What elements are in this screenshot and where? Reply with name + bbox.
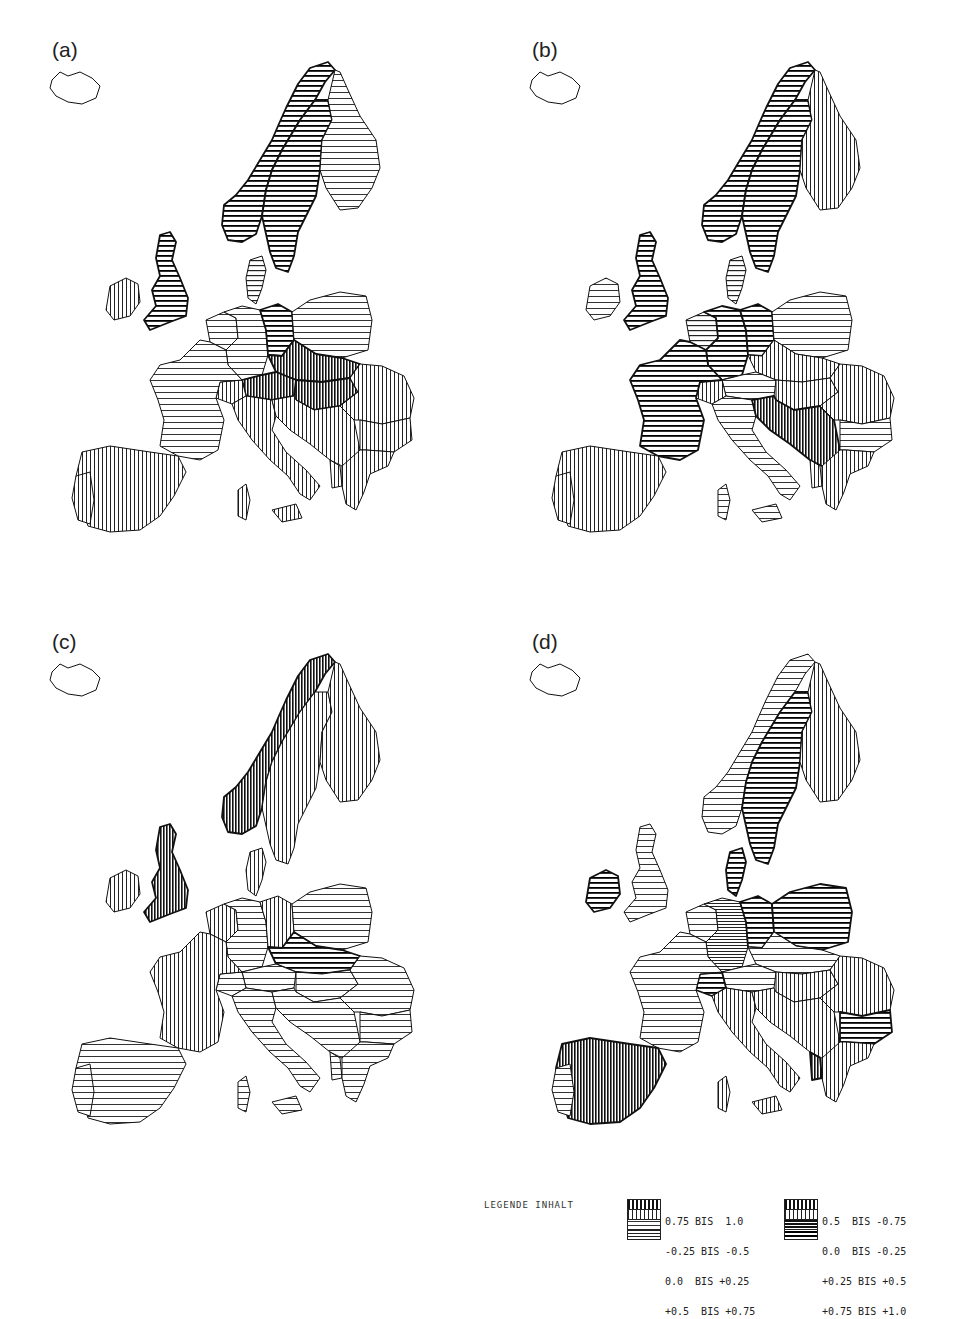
country-sweden xyxy=(742,100,812,272)
swatch-horizontal-bold xyxy=(785,1230,817,1239)
legend-label: +0.5 BIS +0.75 xyxy=(665,1307,755,1317)
swatch-vertical xyxy=(628,1210,660,1220)
panel-label: (d) xyxy=(532,630,558,654)
country-bulgaria xyxy=(840,1010,892,1044)
legend-labels: 0.75 BIS 1.0 -0.25 BIS -0.5 0.0 BIS +0.2… xyxy=(665,1197,755,1319)
country-sicily xyxy=(752,504,782,522)
country-bulgaria xyxy=(360,1010,412,1044)
legend-label: 0.0 BIS -0.25 xyxy=(822,1247,906,1257)
country-portugal xyxy=(552,472,574,524)
country-sicily xyxy=(272,504,302,522)
country-finland xyxy=(800,662,860,802)
country-sicily xyxy=(272,1096,302,1114)
country-finland xyxy=(320,70,380,210)
country-portugal xyxy=(72,472,94,524)
europe-map xyxy=(10,20,480,610)
legend-label: +0.75 BIS +1.0 xyxy=(822,1307,906,1317)
country-iceland xyxy=(530,72,580,104)
map-legend: LEGENDE INHALT 0.75 BIS 1.0 -0.25 BIS -0… xyxy=(484,1197,964,1242)
europe-map xyxy=(490,612,960,1202)
swatch-horizontal xyxy=(628,1230,660,1239)
legend-swatches xyxy=(627,1199,661,1240)
country-sweden xyxy=(262,692,332,864)
country-sardinia xyxy=(238,1076,250,1112)
country-finland xyxy=(320,662,380,802)
country-uk xyxy=(624,824,668,922)
country-sardinia xyxy=(718,484,730,520)
country-sweden xyxy=(262,100,332,272)
swatch-vertical xyxy=(785,1210,817,1220)
country-sardinia xyxy=(718,1076,730,1112)
country-uk xyxy=(144,824,188,922)
country-sicily xyxy=(752,1096,782,1114)
map-panel-c: (c) xyxy=(10,612,480,1202)
country-iceland xyxy=(530,664,580,696)
country-greece xyxy=(342,1042,394,1102)
panel-label: (c) xyxy=(52,630,77,654)
legend-label: 0.5 BIS -0.75 xyxy=(822,1217,906,1227)
country-ireland xyxy=(586,278,620,320)
legend-title: LEGENDE INHALT xyxy=(484,1200,574,1210)
country-uk xyxy=(624,232,668,330)
panel-label: (b) xyxy=(532,38,558,62)
country-bulgaria xyxy=(840,418,892,452)
swatch-vertical-dense xyxy=(785,1200,817,1210)
country-portugal xyxy=(552,1064,574,1116)
country-portugal xyxy=(72,1064,94,1116)
country-denmark xyxy=(246,848,266,896)
country-greece xyxy=(822,450,874,510)
legend-labels: 0.5 BIS -0.75 0.0 BIS -0.25 +0.25 BIS +0… xyxy=(822,1197,906,1319)
legend-label: 0.75 BIS 1.0 xyxy=(665,1217,755,1227)
country-finland xyxy=(800,70,860,210)
panel-label: (a) xyxy=(52,38,78,62)
country-uk xyxy=(144,232,188,330)
country-denmark xyxy=(726,848,746,896)
swatch-horizontal-sparse xyxy=(628,1220,660,1230)
map-panel-a: (a) xyxy=(10,20,480,610)
legend-label: -0.25 BIS -0.5 xyxy=(665,1247,755,1257)
legend-label: +0.25 BIS +0.5 xyxy=(822,1277,906,1287)
country-ireland xyxy=(106,278,140,320)
country-ireland xyxy=(586,870,620,912)
country-sweden xyxy=(742,692,812,864)
country-denmark xyxy=(726,256,746,304)
europe-map xyxy=(10,612,480,1202)
country-greece xyxy=(822,1042,874,1102)
map-panel-b: (b) xyxy=(490,20,960,610)
country-bulgaria xyxy=(360,418,412,452)
country-iceland xyxy=(50,72,100,104)
country-greece xyxy=(342,450,394,510)
europe-map xyxy=(490,20,960,610)
legend-label: 0.0 BIS +0.25 xyxy=(665,1277,755,1287)
map-panel-d: (d) xyxy=(490,612,960,1202)
country-ireland xyxy=(106,870,140,912)
legend-swatches xyxy=(784,1199,818,1240)
swatch-vertical-dense xyxy=(628,1200,660,1210)
country-denmark xyxy=(246,256,266,304)
country-sardinia xyxy=(238,484,250,520)
country-iceland xyxy=(50,664,100,696)
swatch-horizontal-dense xyxy=(785,1220,817,1230)
